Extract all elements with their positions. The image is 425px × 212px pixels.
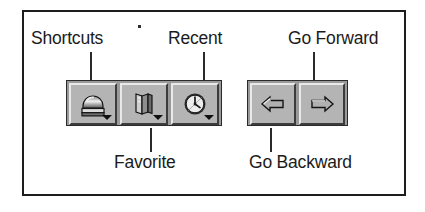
go-forward-button[interactable] [299,83,345,125]
arrow-left-icon [258,89,288,119]
callout-label-recent: Recent [168,28,222,48]
toolbar-callout-figure: Shortcuts Recent Go Forward Favorite Go … [0,0,425,212]
callout-label-go-forward: Go Forward [288,28,378,48]
callout-label-go-backward: Go Backward [249,152,352,172]
recent-button[interactable] [171,83,219,125]
navigation-arrows-toolbar [247,80,348,126]
favorite-button[interactable] [120,83,168,125]
chevron-down-icon[interactable] [102,115,112,120]
chevron-down-icon[interactable] [204,115,214,120]
callout-label-shortcuts: Shortcuts [31,28,103,48]
go-backward-button[interactable] [250,83,296,125]
leader-line-recent [203,52,205,82]
leader-line-go-backward [270,128,272,152]
scan-speck [138,25,141,28]
callout-label-favorite: Favorite [114,152,176,172]
arrow-right-icon [307,89,337,119]
leader-line-favorite [150,128,152,152]
leader-line-go-forward [313,52,315,80]
shortcuts-button[interactable] [69,83,117,125]
chevron-down-icon[interactable] [153,115,163,120]
leader-line-shortcuts [90,52,92,82]
navigation-shortcuts-toolbar [66,80,222,126]
